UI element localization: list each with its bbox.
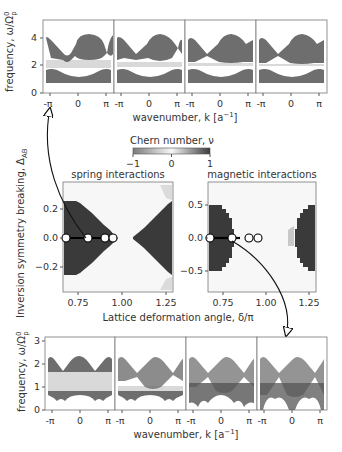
top-subpanel-4 [256, 20, 327, 93]
svg-text:π: π [174, 98, 180, 109]
phase-y-axis-label: Inversion symmetry breaking, ΔAB [15, 148, 29, 318]
svg-text:0.0: 0.0 [43, 232, 58, 243]
top-x-axis-label: wavenumber, k [a−1] [133, 111, 238, 123]
svg-text:0.0: 0.0 [188, 232, 203, 243]
svg-text:1.00: 1.00 [255, 297, 276, 308]
svg-text:0.75: 0.75 [212, 297, 233, 308]
bottom-subpanel-2 [115, 337, 186, 410]
svg-text:-π: -π [256, 98, 265, 109]
svg-text:-π: -π [185, 98, 194, 109]
svg-text:0: 0 [146, 98, 152, 109]
svg-text:3: 3 [34, 335, 40, 346]
svg-text:1: 1 [207, 158, 213, 169]
svg-text:π: π [103, 98, 109, 109]
svg-text:0: 0 [217, 98, 223, 109]
colorbar-title: Chern number, ν [130, 135, 214, 146]
top-subpanel-1 [43, 20, 114, 93]
svg-text:-π: -π [114, 98, 123, 109]
top-subpanel-3 [185, 20, 256, 93]
svg-text:π: π [175, 415, 181, 426]
svg-text:4: 4 [31, 32, 37, 43]
svg-text:0: 0 [147, 415, 153, 426]
top-subpanel-2 [114, 20, 185, 93]
bottom-x-ticks: -π 0 π -π 0 π -π 0 π -π 0 π [45, 410, 323, 426]
svg-text:1: 1 [34, 381, 40, 392]
svg-text:π: π [105, 415, 111, 426]
svg-text:0.2: 0.2 [43, 203, 58, 214]
bottom-y-axis-label: frequency, ω/Ω0p [15, 331, 30, 412]
svg-text:−1: −1 [126, 158, 140, 169]
top-x-ticks: -π 0 π -π 0 π -π 0 π -π 0 π [43, 93, 322, 109]
svg-text:π: π [246, 415, 252, 426]
svg-text:2: 2 [31, 59, 37, 70]
svg-text:0.75: 0.75 [67, 297, 88, 308]
svg-text:-π: -π [45, 415, 54, 426]
svg-text:-π: -π [186, 415, 195, 426]
svg-text:0: 0 [75, 98, 81, 109]
svg-text:0: 0 [31, 87, 37, 98]
top-y-axis-label: frequency, ω/Ω0p [3, 11, 18, 92]
svg-text:−0.2: −0.2 [35, 261, 58, 272]
bottom-x-axis-label: wavenumber, k [a−1] [134, 428, 239, 440]
spring-title: spring interactions [71, 169, 165, 180]
chern-colorbar: Chern number, ν −1 0 1 [126, 135, 214, 169]
bottom-subpanel-1 [45, 337, 115, 410]
bottom-y-ticks: 3 2 1 0 [34, 335, 45, 415]
svg-text:2: 2 [34, 358, 40, 369]
svg-text:-π: -π [257, 415, 266, 426]
svg-text:0: 0 [34, 404, 40, 415]
svg-text:1.00: 1.00 [111, 297, 132, 308]
svg-text:0: 0 [289, 415, 295, 426]
magnetic-title: magnetic interactions [207, 169, 316, 180]
spring-phase-diagram: spring interactions 0.2 0.0 −0.2 0.75 1.… [35, 169, 177, 308]
svg-text:0: 0 [288, 98, 294, 109]
magnetic-phase-diagram: magnetic interactions 0.5 0.0 −0.5 0.75 … [180, 169, 320, 308]
top-y-ticks: 4 2 0 [31, 32, 43, 98]
svg-text:0: 0 [77, 415, 83, 426]
svg-text:π: π [317, 415, 323, 426]
svg-text:-π: -π [43, 98, 52, 109]
svg-text:π: π [245, 98, 251, 109]
bottom-subpanel-3 [186, 337, 257, 410]
figure: frequency, ω/Ω0p 4 2 0 [0, 0, 342, 452]
svg-text:0: 0 [218, 415, 224, 426]
top-band-panel: frequency, ω/Ω0p 4 2 0 [3, 11, 327, 123]
phase-x-axis-label: Lattice deformation angle, δ/π [102, 312, 253, 323]
svg-text:π: π [316, 98, 322, 109]
svg-text:1.25: 1.25 [298, 297, 319, 308]
bottom-subpanel-4 [257, 337, 327, 410]
bottom-band-panel: frequency, ω/Ω0p 3 2 1 0 [15, 331, 327, 440]
svg-text:0: 0 [168, 158, 174, 169]
svg-text:1.25: 1.25 [155, 297, 176, 308]
svg-text:−0.5: −0.5 [180, 265, 203, 276]
svg-text:0.5: 0.5 [188, 199, 203, 210]
svg-text:-π: -π [115, 415, 124, 426]
